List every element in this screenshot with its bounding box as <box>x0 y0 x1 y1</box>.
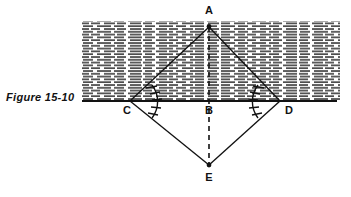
vertex-label-c: C <box>123 104 131 116</box>
segment-c-e <box>130 101 209 165</box>
vertex-dot-e <box>207 163 212 168</box>
hatched-region <box>82 21 340 100</box>
vertex-label-e: E <box>205 171 212 183</box>
vertex-label-b: B <box>205 104 213 116</box>
figure-container: Figure 15-10 <box>0 0 351 197</box>
segment-d-e <box>209 101 280 165</box>
vertex-dot-a <box>207 24 212 29</box>
optics-diagram: A B C D E <box>0 0 351 197</box>
vertex-label-d: D <box>285 104 293 116</box>
vertex-label-a: A <box>205 4 213 16</box>
